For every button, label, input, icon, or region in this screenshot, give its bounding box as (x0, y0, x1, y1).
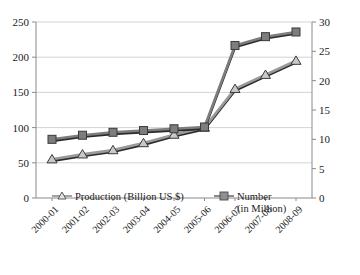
series-markers-1 (48, 28, 300, 143)
right-axis-tick-label: 10 (319, 133, 331, 145)
x-axis-category-label: 2000-01 (29, 204, 60, 235)
left-axis-tick-label: 0 (24, 192, 30, 204)
right-axis-tick-label: 5 (319, 163, 325, 175)
right-axis-tick-label: 30 (319, 16, 331, 28)
data-point-marker (262, 33, 270, 41)
left-axis-tick-label: 200 (13, 51, 30, 63)
legend-label-production: Production (Billion US $) (75, 191, 184, 203)
data-point-marker (109, 128, 117, 136)
legend-marker-square (220, 192, 228, 200)
left-axis-tick-label: 100 (13, 122, 30, 134)
x-axis-category-label: 2002-03 (90, 204, 121, 235)
gridlines (32, 22, 312, 198)
data-point-marker (140, 127, 148, 135)
chart-container: 0501001502002500510152025302000-012001-0… (0, 0, 360, 275)
data-point-marker (79, 131, 87, 139)
data-point-marker (170, 125, 178, 133)
dual-axis-line-chart: 0501001502002500510152025302000-012001-0… (0, 0, 360, 275)
x-axis-category-label: 2001-02 (60, 204, 91, 235)
series-markers-0 (47, 56, 301, 163)
right-axis-tick-label: 25 (319, 45, 331, 57)
left-axis-tick-label: 150 (13, 86, 30, 98)
data-point-marker (201, 123, 209, 131)
series-group (52, 32, 296, 161)
left-axis-tick-label: 250 (13, 16, 30, 28)
right-axis-tick-label: 20 (319, 75, 331, 87)
legend-label-number: Number (237, 191, 272, 202)
data-point-marker (231, 41, 239, 49)
right-axis-tick-label: 0 (319, 192, 325, 204)
legend-label-number-unit: (in Million) (237, 203, 287, 215)
left-axis-tick-label: 50 (18, 157, 30, 169)
data-point-marker (48, 135, 56, 143)
series-line-1 (52, 32, 296, 139)
right-axis-tick-label: 15 (319, 104, 331, 116)
x-axis-category-label: 2005-06 (182, 204, 213, 235)
x-axis-category-label: 2004-05 (151, 204, 182, 235)
x-axis-category-label: 2003-04 (121, 204, 152, 235)
data-point-marker (292, 28, 300, 36)
series-line-0 (52, 61, 296, 160)
